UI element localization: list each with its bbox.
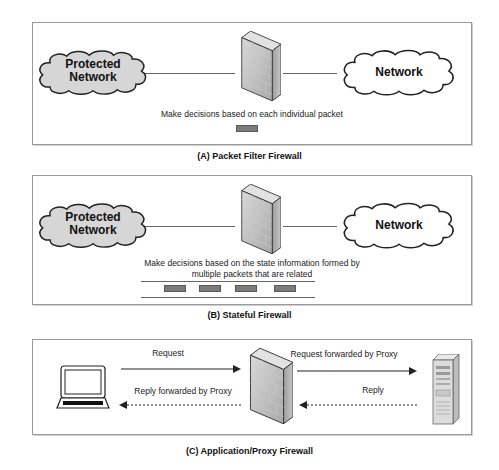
firewall-icon	[241, 348, 293, 424]
cloud-label-line2: Network	[53, 71, 133, 84]
reply-forwarded-arrow	[119, 400, 241, 410]
cloud-label-line2: Network	[53, 224, 133, 237]
panel-stateful: Protected Network Network Make decisions…	[32, 175, 472, 305]
packet	[274, 285, 296, 292]
packet	[199, 285, 221, 292]
reply-forwarded-label: Reply forwarded by Proxy	[118, 386, 248, 396]
packet-stream-bottom-line	[141, 297, 315, 298]
reply-arrow	[299, 400, 419, 410]
caption-application-proxy: (C) Application/Proxy Firewall	[0, 446, 499, 456]
server-tower-icon	[431, 354, 461, 426]
request-arrow	[121, 364, 241, 374]
network-label: Network	[353, 66, 445, 79]
caption-packet-filter: (A) Packet Filter Firewall	[0, 151, 499, 161]
caption-stateful: (B) Stateful Firewall	[0, 310, 499, 320]
panel-description: Make decisions based on the state inform…	[33, 258, 471, 280]
packet	[164, 285, 186, 292]
request-label: Request	[103, 348, 233, 358]
packet	[236, 125, 258, 132]
link-line-right	[283, 226, 337, 227]
packet	[235, 285, 257, 292]
protected-network-label: Protected Network	[53, 211, 133, 237]
description-line2: multiple packets that are related	[33, 269, 471, 280]
panel-application-proxy: Request Reply forwarded by Proxy Request…	[32, 339, 472, 435]
request-forwarded-label: Request forwarded by Proxy	[269, 349, 419, 359]
panel-description: Make decisions based on each individual …	[33, 109, 471, 120]
firewall-icon	[233, 31, 281, 101]
packet-stream-top-line	[141, 281, 315, 282]
laptop-icon	[55, 364, 111, 412]
description-line1: Make decisions based on the state inform…	[33, 258, 471, 269]
request-forwarded-arrow	[297, 366, 417, 376]
firewall-icon	[233, 184, 281, 254]
reply-label: Reply	[323, 385, 423, 395]
protected-network-label: Protected Network	[53, 58, 133, 84]
link-line-right	[283, 73, 337, 74]
network-label: Network	[353, 219, 445, 232]
panel-packet-filter: Protected Network Network Make decisions…	[32, 22, 472, 145]
cropped-header-fragment	[0, 0, 499, 6]
